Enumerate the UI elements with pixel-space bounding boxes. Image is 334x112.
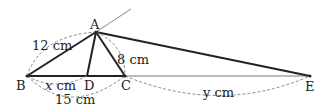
label-c: C — [121, 78, 131, 93]
label-b: B — [16, 78, 26, 93]
point-e-dot — [309, 75, 312, 78]
label-a: A — [89, 17, 100, 32]
extension-ray — [96, 9, 131, 32]
measure-ce: y cm — [202, 85, 234, 100]
label-d: D — [84, 78, 94, 93]
segment-ad — [87, 32, 96, 76]
measure-ac: 8 cm — [117, 52, 149, 67]
geometry-diagram: A B D C E 12 cm 8 cm x cm 15 cm y cm — [0, 0, 334, 112]
unit-ce: cm — [210, 85, 234, 100]
measure-bc: 15 cm — [55, 92, 95, 107]
measure-bd: x cm — [45, 78, 76, 93]
measure-ab: 12 cm — [32, 38, 72, 53]
unit-bd: cm — [52, 78, 76, 93]
label-e: E — [305, 79, 315, 94]
diagram-canvas: A B D C E 12 cm 8 cm x cm 15 cm y cm — [0, 0, 334, 112]
point-b-dot — [26, 75, 29, 78]
